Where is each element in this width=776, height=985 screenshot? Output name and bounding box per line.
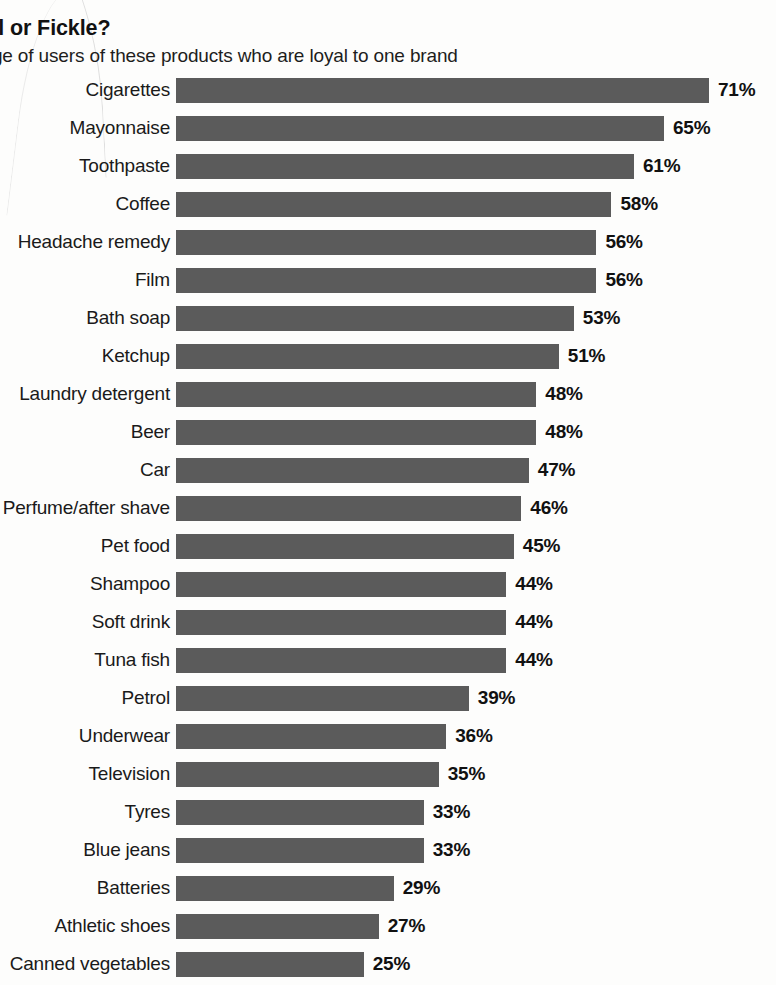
bar-row: Blue jeans33% <box>0 831 776 869</box>
bar-track: 58% <box>176 185 776 223</box>
bar-category-label: Tyres <box>0 801 176 823</box>
chart-page: thful or Fickle? rcentage of users of th… <box>0 0 776 985</box>
bar-category-label: Car <box>0 459 176 481</box>
bar-value-label: 36% <box>455 725 492 747</box>
bar <box>176 268 596 293</box>
bar-row: Tyres33% <box>0 793 776 831</box>
bar-row: Tuna fish44% <box>0 641 776 679</box>
bar-category-label: Toothpaste <box>0 155 176 177</box>
bar-category-label: Coffee <box>0 193 176 215</box>
bar-track: 33% <box>176 831 776 869</box>
bar <box>176 648 506 673</box>
bar-track: 56% <box>176 261 776 299</box>
bar <box>176 610 506 635</box>
bar-category-label: Cigarettes <box>0 79 176 101</box>
bar-value-label: 44% <box>515 573 552 595</box>
bar-category-label: Pet food <box>0 535 176 557</box>
bar-category-label: Athletic shoes <box>0 915 176 937</box>
bar-value-label: 51% <box>568 345 605 367</box>
bar-value-label: 45% <box>523 535 560 557</box>
bar-value-label: 35% <box>448 763 485 785</box>
bar-value-label: 53% <box>583 307 620 329</box>
bar-track: 36% <box>176 717 776 755</box>
bar-category-label: Television <box>0 763 176 785</box>
bar-category-label: Beer <box>0 421 176 443</box>
bar <box>176 496 521 521</box>
bar-track: 27% <box>176 907 776 945</box>
bar-track: 33% <box>176 793 776 831</box>
bar-value-label: 48% <box>545 383 582 405</box>
bar-category-label: Underwear <box>0 725 176 747</box>
bar-row: Shampoo44% <box>0 565 776 603</box>
bar <box>176 572 506 597</box>
bar-row: Coffee58% <box>0 185 776 223</box>
bar-track: 44% <box>176 565 776 603</box>
bar-category-label: Laundry detergent <box>0 383 176 405</box>
bar-track: 51% <box>176 337 776 375</box>
bar <box>176 800 424 825</box>
bar-value-label: 33% <box>433 839 470 861</box>
bar <box>176 230 596 255</box>
bar-value-label: 39% <box>478 687 515 709</box>
bar-value-label: 29% <box>403 877 440 899</box>
bar-row: Beer48% <box>0 413 776 451</box>
bar <box>176 762 439 787</box>
bar <box>176 914 379 939</box>
bar-row: Ketchup51% <box>0 337 776 375</box>
bar-row: Laundry detergent48% <box>0 375 776 413</box>
bar-track: 39% <box>176 679 776 717</box>
bar <box>176 458 529 483</box>
bar-row: Bath soap53% <box>0 299 776 337</box>
bar-category-label: Tuna fish <box>0 649 176 671</box>
bar-track: 44% <box>176 641 776 679</box>
bar-track: 48% <box>176 375 776 413</box>
bar-value-label: 65% <box>673 117 710 139</box>
bar-track: 61% <box>176 147 776 185</box>
bar-category-label: Perfume/after shave <box>0 497 176 519</box>
bar-category-label: Batteries <box>0 877 176 899</box>
bar-track: 35% <box>176 755 776 793</box>
bar-value-label: 47% <box>538 459 575 481</box>
bar-chart: Cigarettes71%Mayonnaise65%Toothpaste61%C… <box>0 71 776 985</box>
bar-value-label: 33% <box>433 801 470 823</box>
bar-track: 45% <box>176 527 776 565</box>
bar-track: 71% <box>176 71 776 109</box>
bar-track: 65% <box>176 109 776 147</box>
bar <box>176 154 634 179</box>
bar-track: 56% <box>176 223 776 261</box>
bar-row: Petrol39% <box>0 679 776 717</box>
bar <box>176 534 514 559</box>
bar <box>176 192 611 217</box>
bar-value-label: 44% <box>515 611 552 633</box>
bar <box>176 420 536 445</box>
bar-category-label: Blue jeans <box>0 839 176 861</box>
bar-row: Television35% <box>0 755 776 793</box>
bar-track: 25% <box>176 945 776 983</box>
page-subtitle: rcentage of users of these products who … <box>0 41 776 67</box>
bar <box>176 724 446 749</box>
bar-track: 44% <box>176 603 776 641</box>
bar-row: Perfume/after shave46% <box>0 489 776 527</box>
bar-value-label: 58% <box>620 193 657 215</box>
bar-track: 47% <box>176 451 776 489</box>
bar-value-label: 61% <box>643 155 680 177</box>
bar <box>176 382 536 407</box>
bar-value-label: 46% <box>530 497 567 519</box>
bar-row: Pet food45% <box>0 527 776 565</box>
bar-category-label: Headache remedy <box>0 231 176 253</box>
bar-row: Canned vegetables25% <box>0 945 776 983</box>
bar-row: Cigarettes71% <box>0 71 776 109</box>
bar-value-label: 44% <box>515 649 552 671</box>
bar-row: Batteries29% <box>0 869 776 907</box>
bar-category-label: Soft drink <box>0 611 176 633</box>
bar-category-label: Shampoo <box>0 573 176 595</box>
bar-category-label: Canned vegetables <box>0 953 176 975</box>
bar <box>176 838 424 863</box>
bar-row: Mayonnaise65% <box>0 109 776 147</box>
bar-track: 53% <box>176 299 776 337</box>
bar <box>176 78 709 103</box>
bar-category-label: Ketchup <box>0 345 176 367</box>
bar-row: Film56% <box>0 261 776 299</box>
bar <box>176 306 574 331</box>
bar-track: 46% <box>176 489 776 527</box>
